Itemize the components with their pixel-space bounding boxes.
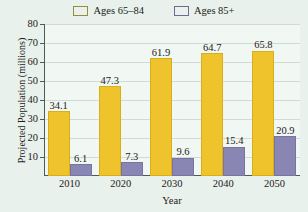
x-tick-label: 2040: [203, 179, 243, 190]
bar[interactable]: 65.8: [252, 51, 274, 176]
y-tick-label: 70: [12, 38, 38, 49]
bar-value-label: 61.9: [152, 48, 170, 59]
chart-legend: Ages 65–84 Ages 85+: [0, 2, 308, 20]
legend-entry-ages-85-plus: Ages 85+: [174, 6, 235, 17]
x-tick-label: 2020: [101, 179, 141, 190]
bar-group: 64.715.4: [198, 24, 249, 176]
bar-value-label: 47.3: [101, 76, 119, 87]
bar[interactable]: 6.1: [70, 164, 92, 176]
bar-value-label: 34.1: [49, 101, 67, 112]
y-tick-label: 80: [12, 19, 38, 30]
bar-value-label: 20.9: [276, 126, 294, 137]
legend-entry-ages-65-84: Ages 65–84: [73, 6, 143, 17]
legend-label-ages-85-plus: Ages 85+: [194, 6, 235, 17]
bar-value-label: 6.1: [74, 154, 87, 165]
bar-value-label: 65.8: [254, 40, 272, 51]
legend-swatch-icon-ages-65-84: [73, 6, 88, 16]
bar-chart: Ages 65–84 Ages 85+ Projected Population…: [0, 0, 308, 212]
bar-group: 65.820.9: [249, 24, 300, 176]
bar-value-label: 7.3: [125, 152, 138, 163]
bar[interactable]: 9.6: [172, 158, 194, 176]
bar[interactable]: 34.1: [48, 111, 70, 176]
legend-label-ages-65-84: Ages 65–84: [93, 6, 143, 17]
y-tick-label: 50: [12, 76, 38, 87]
bar-group: 47.37.3: [95, 24, 146, 176]
y-tick-label: 60: [12, 57, 38, 68]
legend-swatch-icon-ages-85-plus: [174, 6, 189, 16]
bars-layer: 34.16.147.37.361.99.664.715.465.820.9: [44, 24, 300, 176]
bar-value-label: 9.6: [176, 147, 189, 158]
x-tick-label: 2010: [50, 179, 90, 190]
bar[interactable]: 20.9: [274, 136, 296, 176]
bar[interactable]: 7.3: [121, 162, 143, 176]
bar[interactable]: 61.9: [150, 58, 172, 176]
x-axis-title: Year: [44, 195, 300, 206]
bar[interactable]: 15.4: [223, 147, 245, 176]
bar[interactable]: 64.7: [201, 53, 223, 176]
y-tick-label: 10: [12, 152, 38, 163]
bar[interactable]: 47.3: [99, 86, 121, 176]
bar-value-label: 15.4: [225, 136, 243, 147]
y-tick-label: 40: [12, 95, 38, 106]
x-tick-label: 2030: [152, 179, 192, 190]
x-tick-label: 2050: [254, 179, 294, 190]
bar-value-label: 64.7: [203, 43, 221, 54]
y-tick-label: 30: [12, 114, 38, 125]
bar-group: 61.99.6: [146, 24, 197, 176]
y-tick-label: 20: [12, 133, 38, 144]
bar-group: 34.16.1: [44, 24, 95, 176]
